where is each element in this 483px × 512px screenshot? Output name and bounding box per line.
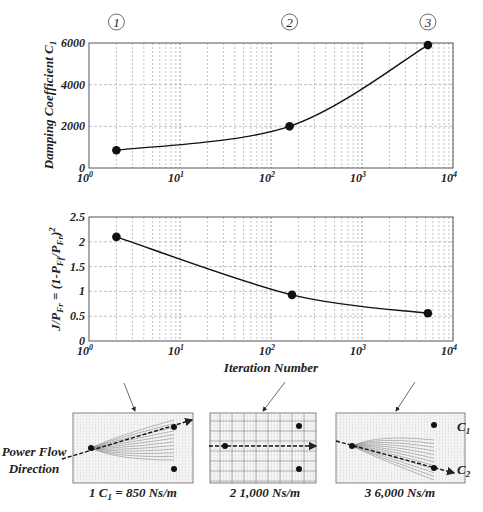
panel-2-caption: 2 1,000 Ns/m [229, 485, 300, 500]
panel-1: 1 C1 = 850 Ns/m [62, 383, 193, 502]
excitation-arrow [396, 382, 415, 411]
x-tick-label: 103 [350, 343, 366, 358]
y-axis-label: Damping Coefficient C1 [41, 41, 58, 170]
damper-location [171, 424, 177, 430]
y-tick-label: 1 [79, 284, 85, 298]
c1-label: C1 [457, 419, 470, 436]
x-tick-label: 100 [77, 170, 93, 185]
panel-3-caption: 3 6,000 Ns/m [364, 485, 435, 500]
y-tick-label: 2 [78, 235, 85, 249]
iteration-markers: 123 [108, 14, 436, 30]
y-tick-label: 2000 [60, 119, 85, 133]
panel-frame [336, 413, 465, 483]
iteration-marker-number: 2 [286, 15, 293, 30]
x-tick-label: 103 [350, 170, 366, 185]
damper-location [88, 445, 94, 451]
x-tick-label: 100 [77, 343, 93, 358]
damper-location [296, 423, 302, 429]
damper-location [431, 465, 437, 471]
x-axis-label: Iteration Number [223, 360, 319, 375]
data-point [112, 233, 121, 242]
c2-label: C2 [457, 462, 471, 479]
damping-coefficient-plot: 0200040006000100101102103104Damping Coef… [41, 36, 457, 185]
excitation-arrow [124, 383, 135, 411]
iteration-marker-number: 3 [424, 15, 432, 30]
data-point [288, 291, 297, 300]
damper-location [222, 443, 228, 449]
plot-frame [89, 43, 453, 168]
iteration-marker-number: 1 [113, 15, 120, 30]
damper-location [349, 443, 355, 449]
y-tick-label: 6000 [61, 36, 85, 50]
y-tick-label: 0.5 [70, 309, 85, 323]
damper-location [296, 466, 302, 472]
power-flow-panels: 1 C1 = 850 Ns/m2 1,000 Ns/m3 6,000 Ns/mC… [2, 382, 471, 502]
y-tick-label: 4000 [60, 78, 85, 92]
y-axis-label: J/PFr = (1-PFf/PFr)2 [47, 227, 65, 332]
cost-curve [116, 237, 428, 313]
x-tick-label: 101 [168, 343, 184, 358]
damper-location [431, 422, 437, 428]
data-point [112, 146, 121, 155]
x-tick-label: 104 [441, 170, 457, 185]
damper-location [171, 466, 177, 472]
y-tick-label: 2.5 [69, 210, 85, 224]
panel-2: 2 1,000 Ns/m [209, 382, 316, 500]
data-point [424, 41, 433, 50]
data-point [285, 122, 294, 131]
x-tick-label: 102 [259, 170, 275, 185]
y-tick-label: 1.5 [70, 260, 85, 274]
x-tick-label: 101 [168, 170, 184, 185]
power-flow-label: Direction [8, 461, 60, 476]
figure: 0200040006000100101102103104Damping Coef… [0, 0, 483, 512]
x-tick-label: 104 [441, 343, 457, 358]
data-point [424, 309, 433, 318]
panel-3: 3 6,000 Ns/mC1C2 [336, 382, 471, 500]
x-tick-label: 102 [259, 343, 275, 358]
excitation-arrow [263, 382, 285, 411]
damping-curve [116, 45, 428, 150]
power-flow-label: Power Flow [2, 444, 67, 459]
cost-ratio-plot: 00.511.522.5100101102103104J/PFr = (1-PF… [47, 210, 457, 375]
panel-1-caption: 1 C1 = 850 Ns/m [89, 485, 177, 502]
